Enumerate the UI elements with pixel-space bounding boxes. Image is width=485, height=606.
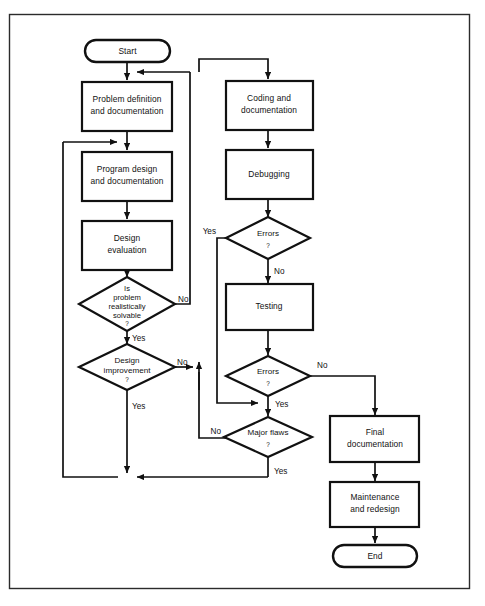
node-end-label: End: [367, 551, 382, 561]
decision-major-flaws[interactable]: Major flaws ?: [224, 417, 312, 457]
edge-label-major-flaws-no: No: [211, 427, 222, 436]
node-debugging[interactable]: Debugging: [226, 150, 313, 199]
node-start[interactable]: Start: [85, 40, 170, 62]
decision-major-flaws-question: ?: [266, 441, 270, 448]
node-maintenance[interactable]: Maintenance and redesign: [330, 482, 419, 527]
edge-label-errors-debug-yes: Yes: [203, 227, 216, 236]
node-problem-definition-line2: and documentation: [91, 106, 164, 116]
decision-design-improvement[interactable]: Design improvement ?: [79, 344, 175, 390]
edge-label-errors-test-yes: Yes: [275, 400, 288, 409]
node-end[interactable]: End: [333, 545, 417, 567]
node-final-documentation-line1: Final: [366, 427, 385, 437]
decision-problem-solvable-line4: solvable: [113, 311, 141, 320]
node-final-documentation-line2: documentation: [347, 439, 403, 449]
decision-problem-solvable-line1: Is: [124, 284, 130, 293]
node-start-label: Start: [118, 46, 137, 56]
decision-errors-testing-line1: Errors: [257, 367, 279, 376]
edge-label-errors-debug-no: No: [274, 267, 285, 276]
edge-label-major-flaws-yes: Yes: [274, 467, 287, 476]
node-maintenance-line2: and redesign: [350, 504, 400, 514]
decision-design-improvement-line2: improvement: [104, 366, 152, 375]
edge-label-solvable-no: No: [178, 295, 189, 304]
edge-solvable-no: [175, 72, 190, 304]
edge-label-improvement-yes: Yes: [132, 402, 145, 411]
node-maintenance-line1: Maintenance: [350, 492, 399, 502]
node-program-design-line1: Program design: [97, 164, 158, 174]
node-design-evaluation[interactable]: Design evaluation: [82, 221, 172, 270]
decision-design-improvement-line1: Design: [114, 356, 139, 365]
decision-errors-testing[interactable]: Errors ?: [226, 356, 310, 396]
node-testing-label: Testing: [255, 301, 282, 311]
node-coding-line2: documentation: [241, 105, 297, 115]
node-coding[interactable]: Coding and documentation: [226, 81, 313, 130]
node-program-design[interactable]: Program design and documentation: [82, 152, 172, 201]
edge-label-solvable-yes: Yes: [132, 334, 145, 343]
node-program-design-line2: and documentation: [91, 176, 164, 186]
edge-label-errors-test-no: No: [317, 361, 328, 370]
flowchart-canvas: Start Problem definition and documentati…: [0, 0, 485, 606]
decision-problem-solvable-line3: realistically: [108, 302, 145, 311]
decision-design-improvement-question: ?: [125, 376, 129, 383]
node-problem-definition-line1: Problem definition: [93, 94, 162, 104]
decision-problem-solvable-line2: problem: [113, 293, 140, 302]
decision-errors-debugging-question: ?: [266, 242, 270, 249]
node-coding-line1: Coding and: [247, 93, 291, 103]
edge-label-improvement-no: No: [177, 358, 188, 367]
flowchart-svg: Start Problem definition and documentati…: [0, 0, 485, 606]
node-testing[interactable]: Testing: [226, 284, 313, 330]
edge-trunk-to-coding: [199, 59, 268, 79]
node-debugging-label: Debugging: [248, 169, 290, 179]
node-design-evaluation-line1: Design: [114, 233, 141, 243]
decision-errors-testing-question: ?: [266, 380, 270, 387]
decision-problem-solvable[interactable]: Is problem realistically solvable ?: [79, 277, 175, 331]
node-design-evaluation-line2: evaluation: [107, 245, 146, 255]
decision-problem-solvable-question: ?: [125, 320, 129, 327]
edge-errors2-no: [310, 376, 375, 415]
node-problem-definition[interactable]: Problem definition and documentation: [82, 82, 172, 131]
decision-errors-debugging[interactable]: Errors ?: [226, 217, 310, 259]
decision-major-flaws-line1: Major flaws: [248, 428, 289, 437]
decision-errors-debugging-line1: Errors: [257, 229, 279, 238]
node-final-documentation[interactable]: Final documentation: [330, 416, 419, 462]
